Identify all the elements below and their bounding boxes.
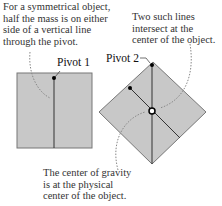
annotation-intersect: Two such lines intersect at the center o… <box>132 11 215 46</box>
annotation-line: half the mass is on either <box>3 13 110 25</box>
pivot-2-dot <box>150 63 154 67</box>
annotation-line: side of a vertical line <box>3 24 110 36</box>
annotation-line: center of the object. <box>43 190 131 202</box>
annotation-line: intersect at the <box>132 23 215 35</box>
annotation-line: through the pivot. <box>3 36 110 48</box>
pivot-3-dot <box>128 86 132 90</box>
annotation-center-gravity: The center of gravity is at the physical… <box>43 167 131 202</box>
annotation-line: The center of gravity <box>43 167 131 179</box>
center-of-gravity-icon <box>149 108 155 114</box>
annotation-line: For a symmetrical object, <box>3 1 110 13</box>
pivot-2-pointer <box>140 58 150 63</box>
annotation-line: is at the physical <box>43 179 131 191</box>
pivot-1-label: Pivot 1 <box>57 56 90 68</box>
pivot-2-label: Pivot 2 <box>106 52 139 64</box>
annotation-symmetry: For a symmetrical object, half the mass … <box>3 1 110 47</box>
annotation-line: Two such lines <box>132 11 215 23</box>
annotation-line: center of the object. <box>132 34 215 46</box>
